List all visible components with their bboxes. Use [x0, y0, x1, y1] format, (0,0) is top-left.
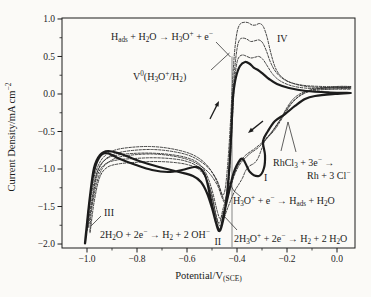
rhcl3-bracket-left [281, 122, 288, 151]
y-axis-tick-label: 1.0 [43, 14, 55, 24]
wave-i-label: I [264, 172, 267, 183]
rhcl3-reduction-line2: Rh + 3 Cl− [307, 169, 350, 181]
x-axis-tick-label: −0.8 [128, 254, 145, 264]
voltammogram-curves [85, 22, 351, 243]
wave-ii-label: II [215, 236, 222, 247]
hydronium-reduction-reaction: 2H3O+ + 2e− → H2 + 2 H2O [234, 232, 347, 246]
y-axis-tick-label: 0.0 [43, 89, 55, 99]
x-axis-tick-label: 0.0 [331, 254, 343, 264]
h3o-adsorption-reaction: H3O+ + e− → Hads + H2O [233, 194, 335, 208]
hads-leader [216, 42, 231, 57]
y-axis-title: Current Density/mA cm−2 [4, 82, 17, 191]
x-axis-tick-label: −0.4 [228, 254, 245, 264]
equilibrium-potential-label: V0(H3O+/H2) [133, 70, 186, 84]
y-axis-tick-label: 0.5 [43, 52, 55, 62]
x-axis-title: Potential/V(SCE) [175, 270, 242, 283]
anodic-scan-direction-arrow-shaft [210, 104, 218, 119]
cyclic-voltammetry-figure: −1.0−0.8−0.6−0.4−0.20.01.00.50.0−0.5−1.0… [0, 0, 371, 297]
y-axis-tick-label: −1.5 [38, 202, 55, 212]
scan-direction-arrows [210, 101, 263, 133]
wave-iii-label: III [104, 207, 114, 218]
wave-iv-label: IV [277, 33, 288, 44]
rhcl3-reduction-line1: RhCl3 + 3e− → [273, 156, 334, 170]
y-axis-tick-label: −1.0 [38, 164, 55, 174]
water-reduction-reaction: 2H2O + 2e− → H2 + 2 OH− [100, 228, 210, 242]
hads-oxidation-reaction: Hads + H2O → H3O+ + e− [111, 30, 213, 44]
y-axis-tick-label: −0.5 [38, 127, 55, 137]
v0-leader [211, 53, 230, 70]
anodic-scan-direction-arrow-head [215, 101, 219, 107]
x-axis-tick-label: −0.2 [278, 254, 295, 264]
hydronium-leader [224, 216, 237, 230]
rhcl3-bracket-right [288, 122, 296, 152]
cv-plot-svg: −1.0−0.8−0.6−0.4−0.20.01.00.50.0−0.5−1.0… [0, 0, 371, 297]
y-axis-tick-label: −2.0 [38, 239, 55, 249]
iii-leader [91, 216, 101, 226]
x-axis-tick-label: −0.6 [178, 254, 195, 264]
x-axis-tick-label: −1.0 [78, 254, 95, 264]
curve-final-cycle-bold [85, 62, 351, 244]
curve-cycle-3 [90, 55, 351, 233]
